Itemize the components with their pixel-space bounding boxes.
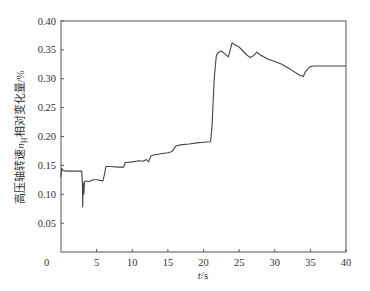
x-tick-label: 40 [341,257,352,268]
y-axis-title: 高压轴转速nH相对变化量/% [13,70,29,204]
y-tick-label: 0.35 [38,44,56,55]
plot-frame [61,21,346,252]
y-tick-label: 0.40 [38,16,56,27]
plot-border [61,21,346,252]
y-axis: 0.050.100.150.200.250.300.350.40 [38,16,64,229]
x-tick-label: 5 [94,257,99,268]
x-tick-label: 30 [270,257,281,268]
y-tick-label: 0.25 [38,102,56,113]
x-tick-label: 25 [234,257,245,268]
y-tick-label: 0.30 [38,73,56,84]
y-tick-label: 0.05 [38,218,56,229]
y-tick-label: 0.10 [38,189,56,200]
x-tick-label: 35 [305,257,316,268]
data-line [61,43,346,207]
x-axis-title: t/s [198,269,208,281]
x-tick-label: 10 [127,257,138,268]
x-tick-label: 20 [198,257,209,268]
origin-label: 0 [44,257,49,268]
y-tick-label: 0.20 [38,131,56,142]
y-tick-label: 0.15 [38,160,56,171]
line-chart: 0.050.100.150.200.250.300.350.40 5101520… [0,0,370,291]
x-tick-label: 15 [163,257,174,268]
